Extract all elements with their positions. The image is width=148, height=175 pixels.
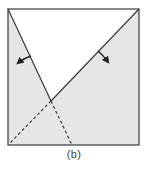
figure-caption: (b): [0, 148, 148, 160]
